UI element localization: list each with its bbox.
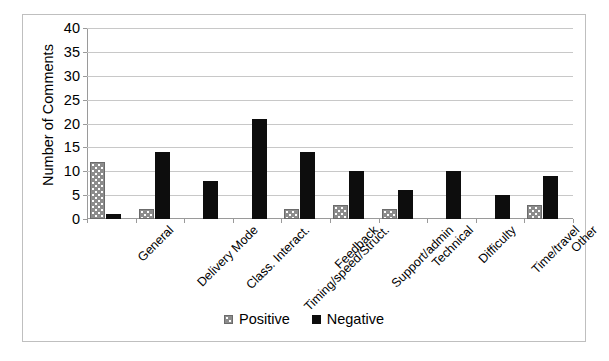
y-tick-label: 35 (64, 44, 80, 60)
bar-group (184, 28, 233, 219)
bar-group (330, 28, 379, 219)
y-tick-label: 0 (72, 211, 80, 227)
y-tick-label: 5 (72, 187, 80, 203)
bar-negative (300, 152, 315, 219)
x-axis-label: Timing/speed/Struct. (301, 223, 392, 314)
y-tick-label: 25 (64, 92, 80, 108)
legend-item-negative[interactable]: Negative (312, 311, 384, 327)
bar-group (476, 28, 525, 219)
y-tick-label: 10 (64, 163, 80, 179)
legend-label: Positive (239, 311, 290, 327)
y-tick-label: 40 (64, 20, 80, 36)
bar-positive (527, 205, 542, 219)
bar-group (379, 28, 428, 219)
bar-negative (543, 176, 558, 219)
y-axis-title: Number of Comments (40, 20, 56, 210)
bar-group (427, 28, 476, 219)
legend-label: Negative (327, 311, 384, 327)
y-tick-label: 30 (64, 68, 80, 84)
bar-positive (382, 209, 397, 219)
bar-group (281, 28, 330, 219)
legend-item-positive[interactable]: Positive (224, 311, 290, 327)
bar-group (524, 28, 573, 219)
bar-group (136, 28, 185, 219)
x-tick-mark (573, 219, 574, 223)
bar-negative (349, 171, 364, 219)
plot-area: 4035302520151050 (87, 28, 573, 219)
bar-group (233, 28, 282, 219)
bar-negative (252, 119, 267, 219)
chart-legend: PositiveNegative (23, 311, 585, 327)
negative-swatch-icon (312, 315, 321, 324)
bar-negative (203, 181, 218, 219)
bar-group (87, 28, 136, 219)
bar-negative (495, 195, 510, 219)
bar-negative (155, 152, 170, 219)
chart-figure: Number of Comments 4035302520151050 Gene… (22, 14, 586, 342)
x-axis-labels: GeneralDelivery ModeClass. Interact.Timi… (87, 223, 573, 309)
bar-positive (333, 205, 348, 219)
y-tick-label: 15 (64, 139, 80, 155)
positive-swatch-icon (224, 315, 233, 324)
y-tick-label: 20 (64, 116, 80, 132)
bar-negative (106, 214, 121, 219)
x-axis-label: Difficulty (476, 223, 519, 266)
x-axis-label: General (135, 223, 176, 264)
bar-positive (139, 209, 154, 219)
bar-negative (398, 190, 413, 219)
bar-negative (446, 171, 461, 219)
bar-positive (284, 209, 299, 219)
bar-positive (90, 162, 105, 219)
